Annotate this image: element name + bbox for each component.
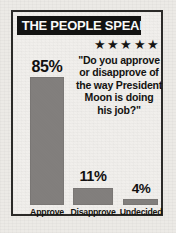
bar-disapprove [73, 188, 113, 205]
newspaper-page: THE PEOPLE SPEAK ★★★★★ "Do you approve o… [0, 0, 176, 233]
bar-undecided [123, 199, 158, 205]
bar-label-undecided: Undecided [114, 207, 167, 217]
infographic-frame: THE PEOPLE SPEAK ★★★★★ "Do you approve o… [11, 10, 163, 216]
bar-label-disapprove: Disapprove [65, 207, 122, 217]
bar-value-disapprove: 11% [67, 168, 119, 184]
bar-approve [30, 77, 64, 205]
bar-chart: 85% Approve 11% Disapprove 4% Undecided [13, 12, 161, 214]
bar-value-approve: 85% [21, 58, 73, 76]
bar-value-undecided: 4% [117, 181, 165, 196]
